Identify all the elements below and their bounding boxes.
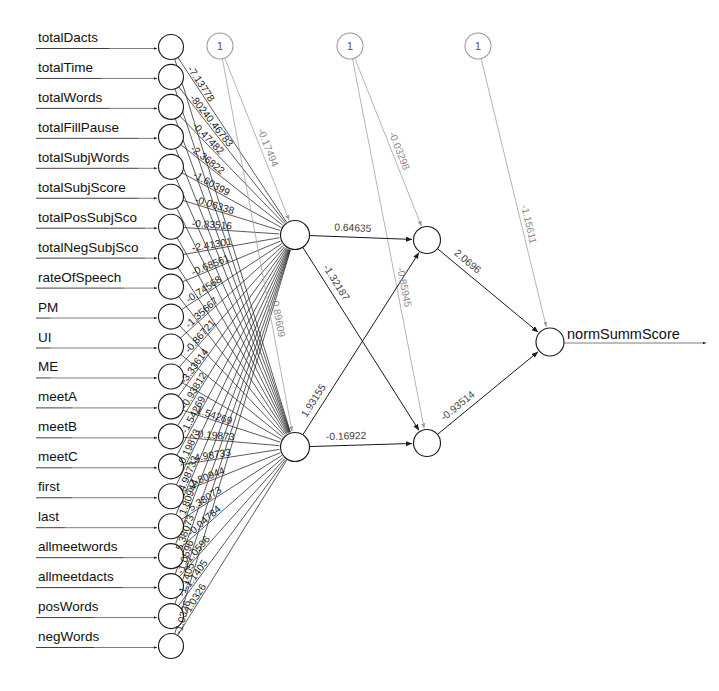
input-label-16: last <box>38 509 59 524</box>
text-layer: totalDactstotalTimetotalWordstotalFillPa… <box>36 30 680 648</box>
hidden-edge-5 <box>437 352 538 435</box>
input-node-20[interactable] <box>159 634 184 659</box>
input-node-9[interactable] <box>159 304 184 329</box>
bias-edge-4 <box>481 59 546 327</box>
input-weight-label-top-5: -0.06338 <box>194 194 236 216</box>
hidden-2-2[interactable] <box>414 430 441 457</box>
network-svg: -7.13778-80240.46783-0.47482-2.36822-1.6… <box>0 0 719 691</box>
input-label-9: PM <box>38 300 58 315</box>
input-label-10: UI <box>38 330 52 345</box>
bias-weight-label-1: 0.89609 <box>270 300 288 339</box>
input-label-13: meetB <box>38 419 77 434</box>
input-node-0[interactable] <box>159 35 184 60</box>
bias-edge-1 <box>222 59 292 431</box>
input-label-7: totalNegSubjSco <box>38 240 139 255</box>
input-label-3: totalFillPause <box>38 120 119 135</box>
output-label: normSummScore <box>567 326 680 342</box>
input-label-5: totalSubjScore <box>38 180 126 195</box>
hidden-weight-label-2: 1.93155 <box>299 382 328 419</box>
input-node-6[interactable] <box>159 214 184 239</box>
input-weight-label-bottom-0: -1.54269 <box>192 403 234 426</box>
input-node-8[interactable] <box>159 274 184 299</box>
input-node-10[interactable] <box>159 334 184 359</box>
bias-node-value-1: 1 <box>347 40 353 52</box>
input-label-11: ME <box>38 359 58 374</box>
bias-node-value-2: 1 <box>475 40 481 52</box>
input-label-18: allmeetdacts <box>38 569 114 584</box>
hidden-2-1[interactable] <box>414 227 441 254</box>
input-label-8: rateOfSpeech <box>38 270 121 285</box>
bias-weight-label-0: -0.17494 <box>256 127 281 169</box>
hidden-edge-3 <box>309 443 412 446</box>
hidden-edge-4 <box>437 249 538 332</box>
input-label-17: allmeetwords <box>38 539 118 554</box>
bias-edge-2 <box>355 58 422 226</box>
bias-weight-label-2: -0.03298 <box>387 130 412 172</box>
hidden-weight-label-4: 2.0696 <box>452 247 483 276</box>
input-label-15: first <box>38 479 60 494</box>
input-label-6: totalPosSubjSco <box>38 210 137 225</box>
input-label-19: posWords <box>38 599 99 614</box>
input-label-4: totalSubjWords <box>38 150 130 165</box>
input-weight-label-top-7: -2.41301 <box>191 236 233 254</box>
input-label-1: totalTime <box>38 60 93 75</box>
input-node-3[interactable] <box>159 124 184 149</box>
input-weight-label-bottom-1: -0.19873 <box>194 428 235 442</box>
input-weight-label-top-6: -0.83516 <box>191 218 232 232</box>
input-label-0: totalDacts <box>38 30 98 45</box>
input-label-2: totalWords <box>38 90 103 105</box>
bias-weight-label-4: -1.15611 <box>519 204 539 245</box>
input-weight-label-bottom-2: 4.98733 <box>194 447 232 464</box>
input-node-4[interactable] <box>159 154 184 179</box>
hidden-edge-0 <box>309 236 412 240</box>
hidden-1-1[interactable] <box>281 221 310 250</box>
bias-weight-label-3: -0.85945 <box>395 266 414 308</box>
input-weight-label-top-9: -0.74568 <box>184 273 224 304</box>
input-label-20: negWords <box>38 629 100 644</box>
output-1[interactable] <box>536 328 564 356</box>
hidden-weight-label-3: -0.16922 <box>326 430 367 442</box>
input-node-7[interactable] <box>159 244 184 269</box>
hidden-1-2[interactable] <box>281 433 310 462</box>
bias-node-value-0: 1 <box>217 40 223 52</box>
input-label-12: meetA <box>38 389 77 404</box>
input-label-14: meetC <box>38 449 78 464</box>
weight-label-layer: -7.13778-80240.46783-0.47482-2.36822-1.6… <box>172 64 539 635</box>
hidden-weight-label-0: 0.64635 <box>334 221 372 233</box>
input-node-1[interactable] <box>159 64 184 89</box>
input-node-2[interactable] <box>159 94 184 119</box>
input-node-5[interactable] <box>159 184 184 209</box>
neural-network-diagram: -7.13778-80240.46783-0.47482-2.36822-1.6… <box>0 0 719 691</box>
